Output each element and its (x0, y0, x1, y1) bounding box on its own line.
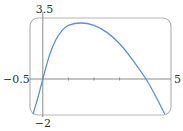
x-min-label: −0.5 (3, 73, 30, 86)
x-max-label: 5 (174, 73, 181, 86)
y-min-label: −2 (35, 117, 51, 130)
y-max-label: 3.5 (36, 3, 54, 16)
chart: 3.5 −2 −0.5 5 (0, 0, 183, 131)
function-curve (33, 23, 165, 114)
plot-frame (30, 18, 171, 115)
